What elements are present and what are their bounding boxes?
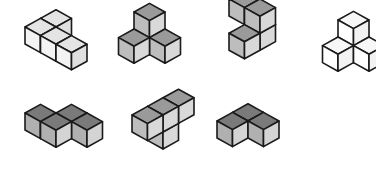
figure-5 xyxy=(25,104,103,147)
figure-6 xyxy=(132,89,194,149)
figure-2 xyxy=(119,3,181,63)
figure-3 xyxy=(229,0,276,59)
figure-1 xyxy=(25,10,87,70)
figures-canvas xyxy=(0,0,376,188)
figure-4 xyxy=(323,11,376,71)
figure-7 xyxy=(217,104,279,147)
